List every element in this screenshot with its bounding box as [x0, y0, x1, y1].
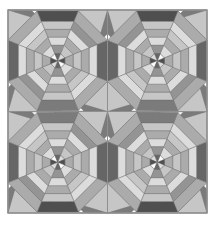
wedge-ring [41, 194, 74, 202]
wedge-ring [126, 48, 134, 74]
wedge-ring [8, 40, 18, 81]
wedge-ring [81, 48, 89, 74]
wedge-ring [41, 21, 74, 29]
block-top-right [108, 10, 208, 112]
wedge-ring [141, 92, 174, 100]
wedge-ring [37, 11, 78, 21]
wedge-ring [144, 29, 170, 37]
wedge-ring [37, 100, 78, 110]
wedge-ring [97, 40, 107, 81]
wedge-ring [41, 92, 74, 100]
quilt-pattern-figure [0, 0, 217, 225]
wedge-ring [137, 113, 178, 123]
wedge-ring [26, 48, 34, 74]
wedge-ring [18, 44, 26, 77]
wedge-ring [144, 131, 170, 139]
wedge-ring [18, 146, 26, 179]
wedge-ring [45, 29, 71, 37]
wedge-ring [137, 100, 178, 110]
block-top-left [8, 10, 108, 112]
wedge-ring [181, 149, 189, 175]
wedge-ring [144, 186, 170, 194]
wedge-ring [108, 40, 118, 81]
block-bottom-right [108, 112, 208, 214]
wedge-ring [141, 21, 174, 29]
wedge-ring [45, 186, 71, 194]
wedge-ring [26, 149, 34, 175]
wedge-ring [89, 44, 97, 77]
wedge-ring [126, 149, 134, 175]
wedge-ring [89, 146, 97, 179]
wedge-ring [8, 142, 18, 183]
wedge-ring [189, 44, 197, 77]
wedge-ring [45, 131, 71, 139]
block-bottom-left [8, 112, 108, 214]
wedge-ring [197, 142, 207, 183]
wedge-ring [141, 123, 174, 131]
wedge-ring [41, 123, 74, 131]
wedge-ring [45, 84, 71, 92]
wedge-ring [37, 113, 78, 123]
wedge-ring [137, 11, 178, 21]
quilt-svg [0, 0, 217, 225]
wedge-ring [37, 202, 78, 212]
wedge-ring [97, 142, 107, 183]
wedge-ring [141, 194, 174, 202]
wedge-ring [108, 142, 118, 183]
wedge-ring [197, 40, 207, 81]
wedge-ring [137, 202, 178, 212]
wedge-ring [189, 146, 197, 179]
wedge-ring [181, 48, 189, 74]
wedge-ring [118, 44, 126, 77]
blocks-layer [8, 10, 207, 213]
wedge-ring [118, 146, 126, 179]
wedge-ring [144, 84, 170, 92]
wedge-ring [81, 149, 89, 175]
